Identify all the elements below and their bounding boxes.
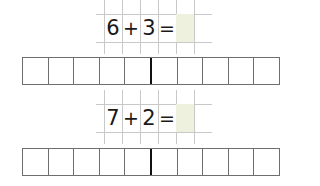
- answer-box[interactable]: [176, 14, 194, 42]
- ten-frame-cell[interactable]: [125, 58, 152, 84]
- ten-frame-cell[interactable]: [254, 149, 279, 175]
- grid-line: [194, 0, 195, 54]
- equation-1: 6 + 3 =: [96, 0, 212, 54]
- ten-frame-cell[interactable]: [23, 58, 49, 84]
- ten-frame-cell[interactable]: [49, 149, 75, 175]
- ten-frame-cell[interactable]: [229, 58, 255, 84]
- operand-b: 2: [140, 104, 158, 132]
- equation-2: 7 + 2 =: [96, 90, 212, 144]
- ten-frame-2: [22, 148, 280, 176]
- grid-line: [194, 90, 195, 144]
- equation-row: 7 + 2 =: [104, 104, 194, 132]
- ten-frame-cell[interactable]: [152, 149, 178, 175]
- ten-frame-cell[interactable]: [152, 58, 178, 84]
- ten-frame-cell[interactable]: [254, 58, 279, 84]
- operand-a: 6: [104, 14, 122, 42]
- ten-frame-cell[interactable]: [203, 149, 229, 175]
- ten-frame-cell[interactable]: [100, 58, 126, 84]
- ten-frame-cell[interactable]: [49, 58, 75, 84]
- equals-sign: =: [158, 14, 176, 42]
- ten-frame-cell[interactable]: [23, 149, 49, 175]
- ten-frame-cell[interactable]: [203, 58, 229, 84]
- equals-sign: =: [158, 104, 176, 132]
- answer-box[interactable]: [176, 104, 194, 132]
- ten-frame-cell[interactable]: [229, 149, 255, 175]
- ten-frame-cell[interactable]: [74, 58, 100, 84]
- ten-frame-cell[interactable]: [178, 58, 204, 84]
- operand-b: 3: [140, 14, 158, 42]
- operand-a: 7: [104, 104, 122, 132]
- ten-frame-cell[interactable]: [125, 149, 152, 175]
- ten-frame-cell[interactable]: [74, 149, 100, 175]
- plus-sign: +: [122, 104, 140, 132]
- ten-frame-cell[interactable]: [178, 149, 204, 175]
- ten-frame-1: [22, 57, 280, 85]
- ten-frame-cell[interactable]: [100, 149, 126, 175]
- plus-sign: +: [122, 14, 140, 42]
- equation-row: 6 + 3 =: [104, 14, 194, 42]
